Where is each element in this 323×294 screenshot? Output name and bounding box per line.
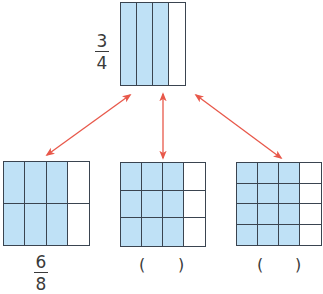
model-cell-empty <box>184 191 205 219</box>
model-cell-shaded <box>279 163 300 184</box>
model-cell-empty <box>300 163 321 184</box>
model-cell-shaded <box>47 162 68 204</box>
model-cell-shaded <box>121 191 142 219</box>
model-cell-shaded <box>237 204 258 225</box>
model-cell-shaded <box>279 204 300 225</box>
double-arrow-left <box>47 95 130 155</box>
model-cell-shaded <box>163 218 184 246</box>
model-cell-empty <box>68 204 89 246</box>
close-paren: ) <box>178 257 184 273</box>
fraction-bar <box>34 272 48 273</box>
model-cell-shaded <box>4 204 25 246</box>
close-paren: ) <box>295 257 301 273</box>
model-cell-shaded <box>237 163 258 184</box>
model-cell-shaded <box>258 163 279 184</box>
model-cell-empty <box>184 163 205 191</box>
open-paren: ( <box>257 257 263 273</box>
model-cell-shaded <box>258 204 279 225</box>
model-cell-shaded <box>142 163 163 191</box>
model-cell-shaded <box>279 225 300 246</box>
model-cell-shaded <box>25 162 46 204</box>
model-cell-empty <box>300 225 321 246</box>
model-cell-shaded <box>279 184 300 205</box>
model-cell-shaded <box>237 225 258 246</box>
eighths-numerator: 6 <box>36 254 47 270</box>
model-cell-shaded <box>25 204 46 246</box>
twelfths-model <box>120 162 206 247</box>
model-cell-empty <box>300 204 321 225</box>
model-cell-shaded <box>142 218 163 246</box>
model-cell-shaded <box>163 163 184 191</box>
model-cell-empty <box>300 184 321 205</box>
open-paren: ( <box>139 257 145 273</box>
model-cell-shaded <box>237 184 258 205</box>
model-cell-shaded <box>4 162 25 204</box>
model-cell-shaded <box>121 163 142 191</box>
model-cell-shaded <box>258 225 279 246</box>
eighths-fraction-label: 6 8 <box>34 254 48 292</box>
model-cell-empty <box>184 218 205 246</box>
eighths-denominator: 8 <box>36 276 47 292</box>
model-cell-empty <box>68 162 89 204</box>
model-cell-shaded <box>121 218 142 246</box>
model-cell-shaded <box>47 204 68 246</box>
eighths-model <box>3 161 90 246</box>
model-cell-shaded <box>142 191 163 219</box>
sixteenths-model <box>236 162 322 246</box>
model-cell-shaded <box>258 184 279 205</box>
double-arrow-right <box>196 95 281 158</box>
model-cell-shaded <box>163 191 184 219</box>
